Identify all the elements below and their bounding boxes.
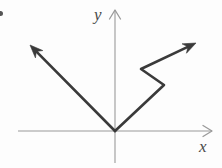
diagram-canvas: [0, 0, 222, 168]
vector-diagram-figure: y x: [0, 0, 222, 168]
upper-left-vector-line: [36, 51, 115, 131]
zigzag-right-vector-line: [115, 47, 188, 131]
y-axis-label: y: [94, 6, 102, 23]
x-axis-label: x: [199, 138, 207, 155]
